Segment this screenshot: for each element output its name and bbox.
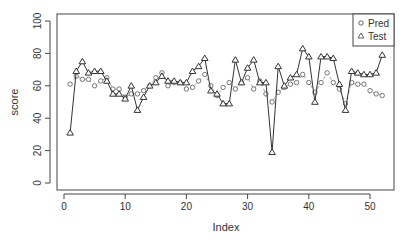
x-axis-label: Index — [213, 221, 240, 233]
x-tick-label: 0 — [61, 201, 67, 212]
y-tick-label: 0 — [32, 180, 43, 186]
y-tick-label: 80 — [32, 47, 43, 59]
x-axis: 01020304050 — [61, 194, 376, 212]
y-tick-label: 60 — [32, 80, 43, 92]
legend: Pred Test — [353, 14, 394, 46]
legend-label-test: Test — [368, 31, 387, 42]
y-axis-label: score — [8, 89, 20, 116]
y-tick-label: 40 — [32, 112, 43, 124]
y-axis: 020406080100 — [32, 12, 50, 186]
x-tick-label: 10 — [120, 201, 132, 212]
x-tick-label: 50 — [364, 201, 376, 212]
y-tick-label: 20 — [32, 145, 43, 157]
line-chart: 020406080100 01020304050 score Index Pre… — [0, 0, 409, 245]
legend-label-pred: Pred — [368, 18, 389, 29]
x-tick-label: 20 — [181, 201, 193, 212]
x-tick-label: 40 — [303, 201, 315, 212]
y-tick-label: 100 — [32, 12, 43, 29]
x-tick-label: 30 — [242, 201, 254, 212]
series-test — [67, 45, 386, 154]
